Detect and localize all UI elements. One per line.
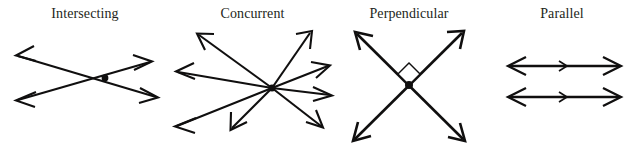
panel-intersecting: Intersecting xyxy=(0,0,170,152)
intersecting-diagram xyxy=(0,0,170,152)
intersection-point xyxy=(102,75,109,82)
parallel-line-top xyxy=(508,57,621,75)
concurrent-diagram xyxy=(170,0,335,152)
panel-parallel: Parallel xyxy=(483,0,641,152)
concurrency-point xyxy=(268,84,275,91)
intersecting-line-b xyxy=(16,55,152,107)
line-relationships-figure: Intersecting Concurrent xyxy=(0,0,641,152)
concurrent-rays xyxy=(175,31,332,133)
perpendicular-intersection-point xyxy=(405,81,413,89)
parallel-line-bottom xyxy=(508,88,621,106)
parallel-diagram xyxy=(483,0,641,152)
perpendicular-diagram xyxy=(335,0,483,152)
panel-concurrent: Concurrent xyxy=(170,0,335,152)
panel-perpendicular: Perpendicular xyxy=(335,0,483,152)
